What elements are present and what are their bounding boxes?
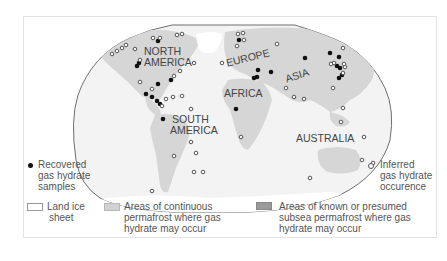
legend-recovered-text: Recovered gas hydrate samples (38, 160, 90, 192)
inferred-circle-icon (368, 163, 374, 169)
legend-recovered-line2: gas hydrate (38, 171, 90, 182)
recovered-dot-icon (28, 163, 33, 168)
legend-continuous-permafrost-line2: permafrost where gas (124, 213, 221, 224)
legend-inferred-line3: occurence (380, 182, 432, 193)
subsea-permafrost-swatch (256, 202, 272, 210)
label-south-america-line2: AMERICA (170, 125, 218, 136)
label-australia: AUSTRALIA (296, 133, 354, 144)
legend-subsea-permafrost-line2: subsea permafrost where gas (279, 213, 411, 224)
label-south-america: SOUTH AMERICA (170, 114, 218, 136)
label-north-america: NORTH AMERICA (144, 46, 192, 68)
legend-continuous-permafrost-line3: hydrate may occur (124, 224, 221, 235)
legend-land-ice-text: Land ice sheet (47, 202, 85, 224)
label-north-america-line2: AMERICA (144, 57, 192, 68)
legend-subsea-permafrost-line3: hydrate may occur (279, 224, 411, 235)
land-ice-swatch (27, 203, 43, 211)
label-africa: AFRICA (224, 88, 263, 99)
legend-continuous-permafrost-text: Areas of continuous permafrost where gas… (124, 202, 221, 234)
continuous-permafrost-swatch (104, 203, 120, 211)
legend-subsea-permafrost-text: Areas of known or presumed subsea permaf… (279, 202, 411, 234)
legend-inferred-text: Inferred gas hydrate occurence (380, 160, 432, 192)
legend-recovered-line3: samples (38, 182, 90, 193)
legend-land-ice-line2: sheet (47, 213, 85, 224)
legend-inferred-line2: gas hydrate (380, 171, 432, 182)
